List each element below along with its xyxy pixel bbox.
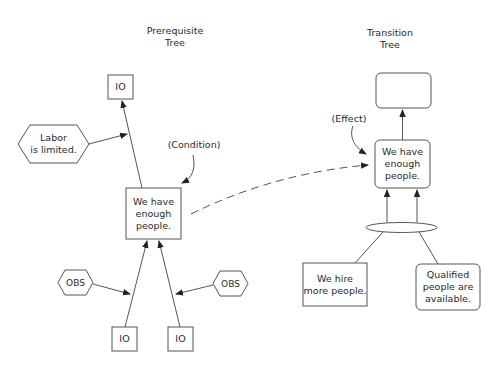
arrow-condition-callout <box>182 155 194 183</box>
arrow-labor-to-link <box>89 134 127 144</box>
arrow-bottom-right-io-to-center <box>159 241 180 327</box>
transition-action-label: We hire more people. <box>303 263 367 306</box>
prerequisite-tree-title: Prerequisite Tree <box>135 25 215 49</box>
arrow-center-to-top-io <box>122 101 142 188</box>
condition-label: (Condition) <box>162 139 226 151</box>
arrow-bottom-left-io-to-center <box>125 241 147 327</box>
arrow-obs-left-to-link <box>93 284 130 294</box>
line-action-to-ellipse <box>355 232 383 263</box>
transition-condition-label: Qualified people are available. <box>416 264 480 310</box>
transition-top-label <box>376 73 431 108</box>
obs-left-label: OBS <box>58 270 93 295</box>
line-condition-to-ellipse <box>419 232 438 264</box>
center-node-label: We have enough people. <box>126 188 181 239</box>
arrow-effect-callout <box>352 126 366 154</box>
effect-label: (Effect) <box>326 113 372 125</box>
io-bottom-right-label: IO <box>168 327 193 351</box>
obs-right-label: OBS <box>213 271 248 296</box>
and-connector-ellipse <box>366 223 437 233</box>
arrow-obs-right-to-link <box>176 285 213 294</box>
dashed-arrow-prereq-to-transition <box>191 165 368 214</box>
io-bottom-left-label: IO <box>112 327 137 351</box>
labor-limited-label: Labor is limited. <box>18 125 89 163</box>
transition-effect-label: We have enough people. <box>375 140 430 188</box>
transition-tree-title: Transition Tree <box>350 27 430 51</box>
io-top-label: IO <box>108 75 133 99</box>
